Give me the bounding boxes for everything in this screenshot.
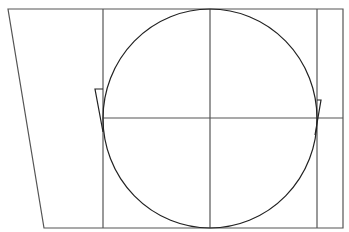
left-tangent-bracket: [95, 89, 103, 132]
geometric-diagram: [0, 0, 349, 232]
